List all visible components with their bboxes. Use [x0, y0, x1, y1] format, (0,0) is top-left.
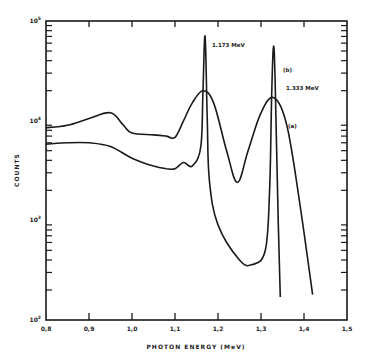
spectrum-chart: 0,80,91,01,11,21,31,41,5 102103104105 PH… — [0, 0, 365, 360]
curve-label-b: (b) — [283, 67, 292, 73]
x-tick-label: 1,0 — [127, 325, 138, 332]
curve-label-a: (a) — [288, 123, 297, 129]
x-tick-label: 1,3 — [256, 325, 267, 332]
x-tick-label: 1,4 — [299, 325, 310, 332]
y-tick-label: 102 — [30, 315, 42, 323]
y-axis-ticks — [46, 26, 347, 290]
x-tick-label: 1,1 — [170, 325, 181, 332]
curve-b-high-resolution-spectrum — [46, 36, 280, 297]
x-tick-label: 0,9 — [84, 325, 95, 332]
x-tick-label: 0,8 — [41, 325, 52, 332]
x-axis-label: PHOTON ENERGY (MeV) — [146, 343, 245, 350]
peak-label-1173: 1.173 MeV — [212, 42, 246, 48]
peak-label-1333: 1.333 MeV — [286, 85, 320, 91]
y-tick-label: 103 — [30, 215, 42, 223]
y-tick-label: 105 — [30, 16, 42, 24]
y-axis-label: COUNTS — [13, 153, 20, 187]
x-tick-label: 1,2 — [213, 325, 224, 332]
y-tick-label: 104 — [30, 116, 42, 124]
y-axis-tick-labels: 102103104105 — [30, 16, 42, 323]
x-axis-tick-labels: 0,80,91,01,11,21,31,41,5 — [41, 325, 353, 332]
x-tick-label: 1,5 — [342, 325, 353, 332]
curve-a-broad-spectrum — [46, 91, 313, 295]
plot-frame — [46, 21, 347, 320]
